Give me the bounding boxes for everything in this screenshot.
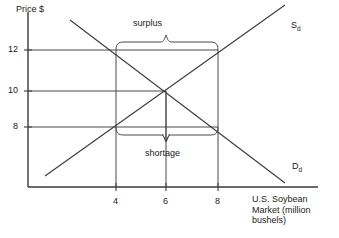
x-axis-title: U.S. Soybean Market (million bushels) [252,194,311,226]
shortage-label: shortage [145,148,180,159]
x-axis-title-line-1: U.S. Soybean [252,194,311,205]
demand-curve-label: Dd [292,161,302,173]
y-tick-label-12: 12 [8,44,18,55]
x-tick-label-4: 4 [113,196,118,207]
surplus-brace [116,35,218,50]
supply-label-subscript: d [297,25,301,32]
demand-label-subscript: d [299,166,303,173]
x-tick-label-8: 8 [215,196,220,207]
surplus-label: surplus [133,18,162,29]
x-axis-title-line-3: bushels) [252,215,311,226]
x-tick-label-6: 6 [163,196,168,207]
y-axis-title: Price $ [16,4,44,15]
supply-demand-figure: Price $ 12 10 8 4 6 8 surplus shortage S… [0,0,339,238]
supply-curve-label: Sd [291,20,301,32]
x-axis-title-line-2: Market (million [252,205,311,216]
y-tick-label-8: 8 [13,121,18,132]
y-tick-label-10: 10 [8,85,18,96]
